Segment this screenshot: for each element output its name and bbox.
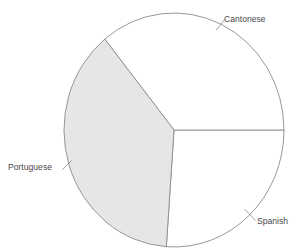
pie-chart-svg: Cantonese Portuguese Spanish [0,0,298,250]
pie-label-cantonese: Cantonese [224,14,266,24]
pie-chart-figure: Cantonese Portuguese Spanish [0,0,298,250]
pie-label-portuguese: Portuguese [8,162,52,172]
pie-label-spanish: Spanish [257,216,288,226]
pie-slice-spanish[interactable] [166,130,284,247]
